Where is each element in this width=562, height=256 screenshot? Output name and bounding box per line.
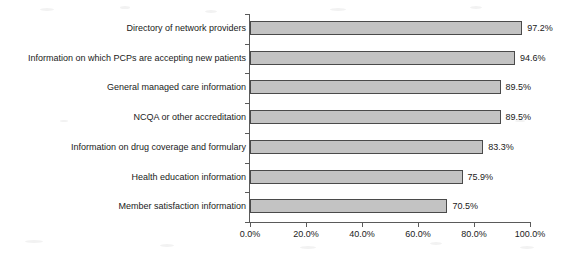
- category-label-row: Information on which PCPs are accepting …: [0, 44, 246, 74]
- scan-speckle: [40, 8, 54, 11]
- scan-speckle: [160, 244, 174, 247]
- x-axis-tick-label: 60.0%: [388, 229, 448, 239]
- category-axis-labels: Directory of network providersInformatio…: [0, 14, 246, 222]
- x-axis-tick: [362, 223, 363, 227]
- plot-area: 97.2%94.6%89.5%89.5%83.3%75.9%70.5%: [250, 14, 530, 222]
- x-axis-tick: [418, 223, 419, 227]
- bar: [250, 21, 522, 35]
- category-label-row: Member satisfaction information: [0, 192, 246, 222]
- x-axis-tick: [250, 223, 251, 227]
- category-label: General managed care information: [2, 80, 246, 94]
- bar-value-label: 97.2%: [527, 21, 553, 35]
- bar-value-label: 89.5%: [506, 80, 532, 94]
- x-axis-tick-label: 20.0%: [276, 229, 336, 239]
- category-label: Member satisfaction information: [2, 199, 246, 213]
- bar-row: 75.9%: [250, 163, 530, 193]
- category-label-row: General managed care information: [0, 73, 246, 103]
- x-axis-tick: [530, 223, 531, 227]
- category-label-row: Directory of network providers: [0, 14, 246, 44]
- bar: [250, 80, 501, 94]
- x-axis-line: [250, 222, 531, 223]
- bar: [250, 51, 515, 65]
- bar: [250, 140, 483, 154]
- bar-row: 89.5%: [250, 103, 530, 133]
- scan-speckle: [25, 240, 43, 243]
- bar: [250, 170, 463, 184]
- bar-value-label: 94.6%: [520, 51, 546, 65]
- bar-series: 97.2%94.6%89.5%89.5%83.3%75.9%70.5%: [250, 14, 530, 222]
- x-axis-tick: [306, 223, 307, 227]
- category-label: Information on drug coverage and formula…: [2, 140, 246, 154]
- scan-speckle: [520, 246, 534, 249]
- bar-row: 94.6%: [250, 44, 530, 74]
- scan-speckle: [120, 6, 130, 9]
- category-label-row: Health education information: [0, 163, 246, 193]
- scan-speckle: [430, 242, 442, 245]
- x-axis-tick-label: 100.0%: [500, 229, 560, 239]
- x-axis-tick: [474, 223, 475, 227]
- bar-value-label: 89.5%: [506, 110, 532, 124]
- category-label-row: NCQA or other accreditation: [0, 103, 246, 133]
- category-label-row: Information on drug coverage and formula…: [0, 133, 246, 163]
- scan-speckle: [300, 246, 316, 249]
- bar-value-label: 75.9%: [468, 170, 494, 184]
- category-label: NCQA or other accreditation: [2, 110, 246, 124]
- bar-value-label: 83.3%: [488, 140, 514, 154]
- x-axis-tick-label: 0.0%: [220, 229, 280, 239]
- scan-speckle: [205, 10, 217, 13]
- bar-row: 89.5%: [250, 73, 530, 103]
- scan-speckle: [470, 6, 482, 9]
- bar-row: 70.5%: [250, 192, 530, 222]
- scan-speckle: [330, 8, 346, 11]
- x-axis-tick-label: 80.0%: [444, 229, 504, 239]
- bar-row: 97.2%: [250, 14, 530, 44]
- category-label: Directory of network providers: [2, 21, 246, 35]
- bar-row: 83.3%: [250, 133, 530, 163]
- x-axis-tick-label: 40.0%: [332, 229, 392, 239]
- category-label: Information on which PCPs are accepting …: [2, 51, 246, 65]
- bar: [250, 110, 501, 124]
- category-label: Health education information: [2, 170, 246, 184]
- bar: [250, 199, 447, 213]
- bar-chart: Directory of network providersInformatio…: [0, 0, 562, 256]
- bar-value-label: 70.5%: [452, 199, 478, 213]
